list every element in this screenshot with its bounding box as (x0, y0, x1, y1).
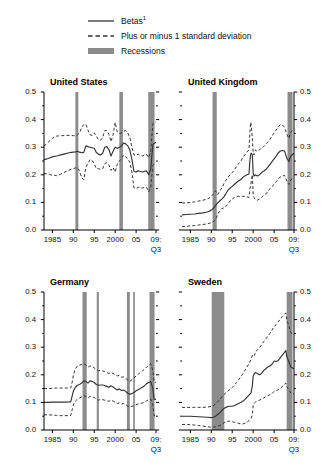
series-line-dashed (182, 313, 294, 407)
y-tick-label: 0.2 (300, 170, 311, 179)
y-tick-label: 0.5 (10, 87, 36, 96)
x-tick-label: 09: (277, 435, 311, 444)
panel-title-germany: Germany (50, 277, 89, 287)
recession-band (83, 292, 87, 430)
x-tick-label-q3: Q3 (277, 445, 311, 454)
y-tick-label: 0.0 (300, 425, 311, 434)
y-tick-label: 0.3 (10, 142, 36, 151)
y-tick-label: 0.2 (300, 370, 311, 379)
y-tick-label: 0.3 (300, 142, 311, 151)
y-tick-label: 0.1 (10, 197, 36, 206)
series-line-dashed (44, 155, 156, 192)
x-tick-label: 09: (139, 435, 173, 444)
y-tick-label: 0.0 (300, 225, 311, 234)
recession-band (133, 292, 135, 430)
y-tick-label: 0.2 (10, 170, 36, 179)
y-tick-label: 0.2 (10, 370, 36, 379)
panel-title-united-states: United States (50, 77, 108, 87)
y-tick-label: 0.3 (10, 342, 36, 351)
y-tick-label: 0.5 (300, 87, 311, 96)
series-line-solid (182, 151, 294, 215)
y-tick-label: 0.4 (300, 315, 311, 324)
panel-germany (41, 292, 159, 433)
series-line-dashed (44, 122, 156, 158)
x-tick-label-q3: Q3 (139, 245, 173, 254)
panel-united-kingdom (179, 92, 297, 233)
recession-band (97, 292, 99, 430)
panel-title-united-kingdom: United Kingdom (188, 77, 258, 87)
series-line-solid (44, 142, 156, 175)
figure-root: Betas1 Plus or minus 1 standard deviatio… (0, 0, 333, 471)
y-tick-label: 0.4 (300, 115, 311, 124)
y-tick-label: 0.5 (300, 287, 311, 296)
recession-band (127, 292, 130, 430)
panel-title-sweden: Sweden (188, 277, 222, 287)
y-tick-label: 0.3 (300, 342, 311, 351)
x-tick-label-q3: Q3 (277, 245, 311, 254)
x-tick-label: 09: (277, 235, 311, 244)
x-tick-label-q3: Q3 (139, 445, 173, 454)
y-tick-label: 0.0 (10, 425, 36, 434)
y-tick-label: 0.1 (300, 197, 311, 206)
y-tick-label: 0.5 (10, 287, 36, 296)
y-tick-label: 0.0 (10, 225, 36, 234)
series-line-solid (44, 381, 156, 403)
recession-band (75, 92, 78, 230)
recession-band (287, 292, 293, 430)
panel-united-states (41, 92, 159, 233)
series-line-dashed (182, 122, 294, 203)
series-line-dashed (44, 396, 156, 416)
series-line-dashed (182, 383, 294, 427)
x-tick-label: 09: (139, 235, 173, 244)
panel-sweden (179, 292, 297, 433)
y-tick-label: 0.1 (300, 397, 311, 406)
y-tick-label: 0.1 (10, 397, 36, 406)
y-tick-label: 0.4 (10, 115, 36, 124)
y-tick-label: 0.4 (10, 315, 36, 324)
